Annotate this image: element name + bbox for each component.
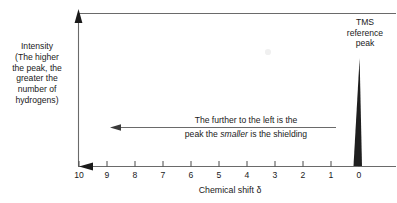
y-axis-caption-line-1: Intensity (0, 41, 74, 52)
x-tick-label-2: 2 (293, 170, 313, 180)
y-axis-caption-line-5: number of (0, 84, 74, 95)
shielding-arrow-head-icon (110, 124, 121, 131)
x-tick-label-3: 3 (265, 170, 285, 180)
x-axis-ticks (79, 161, 359, 167)
y-axis-caption-line-3: the peak, the (0, 63, 74, 74)
x-tick-label-0: 0 (349, 170, 369, 180)
tms-peak-label-line-1: TMS (334, 17, 396, 28)
scan-speck-artifact (265, 49, 271, 55)
shielding-annotation-line-1: The further to the left is the (148, 114, 344, 128)
y-axis-caption-line-2: (The higher (0, 52, 74, 63)
x-tick-label-4: 4 (237, 170, 257, 180)
shielding-annotation-line-2-after: is the shielding (248, 129, 307, 139)
shielding-annotation-emphasis: smaller (220, 129, 248, 139)
nmr-axes-figure: Intensity (The higher the peak, the grea… (0, 0, 397, 203)
shielding-annotation-line-2-before: peak the (185, 129, 220, 139)
tms-peak-label-line-2: reference (334, 28, 396, 39)
shielding-annotation: The further to the left is the peak the … (148, 114, 344, 141)
y-axis-caption: Intensity (The higher the peak, the grea… (0, 41, 74, 106)
tms-peak-label-line-3: peak (334, 38, 396, 49)
y-axis-caption-line-6: hydrogens) (0, 95, 74, 106)
x-tick-label-9: 9 (97, 170, 117, 180)
x-tick-label-5: 5 (209, 170, 229, 180)
y-axis-caption-line-4: greater the (0, 73, 74, 84)
x-tick-label-10: 10 (69, 170, 89, 180)
tms-peak-trace (354, 58, 363, 166)
tms-peak-label: TMS reference peak (334, 17, 396, 49)
x-tick-label-7: 7 (153, 170, 173, 180)
x-tick-label-1: 1 (321, 170, 341, 180)
y-axis-arrowhead-icon (75, 9, 83, 23)
x-axis-title: Chemical shift δ (140, 186, 320, 195)
shielding-annotation-line-2: peak the smaller is the shielding (148, 128, 344, 142)
x-tick-label-6: 6 (181, 170, 201, 180)
x-tick-label-8: 8 (125, 170, 145, 180)
